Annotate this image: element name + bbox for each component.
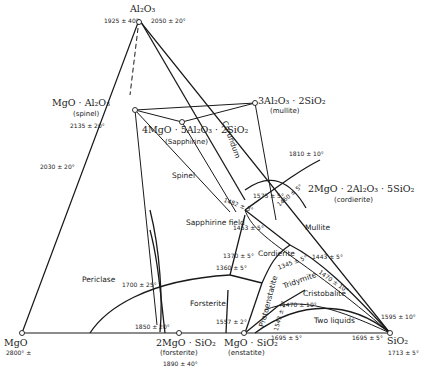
- compound-enstatite-name: (enstatite): [228, 350, 265, 357]
- compound-mullite-formula: 3Al₂O₃ · 2SiO₂: [258, 96, 326, 106]
- point-mullite: [253, 101, 258, 106]
- compound-forsterite-temp: 1890 ± 40°: [163, 361, 198, 367]
- field-forsterite: Forsterite: [190, 300, 226, 308]
- compound-spinel-name: (spinel): [73, 111, 99, 118]
- compound-cordierite-name: (cordierite): [334, 197, 373, 204]
- temp-1695b: 1695 ± 5°: [352, 335, 383, 341]
- temp-1595: 1595 ± 10°: [381, 314, 416, 320]
- vertex-top-formula: Al₂O₃: [130, 4, 155, 14]
- temp-1850: 1850 ± 20°: [135, 324, 170, 330]
- field-spinel: Spinel: [172, 172, 195, 180]
- field-periclase: Periclase: [82, 276, 115, 284]
- compound-spinel-formula: MgO · Al₂O₃: [52, 98, 110, 108]
- field-two-liquids: Two liquids: [314, 317, 355, 325]
- vertex-left-temp: 2800° ±: [6, 350, 31, 356]
- vertex-right-temp: 1713 ± 5°: [388, 350, 419, 356]
- point-spinel: [133, 108, 138, 113]
- compound-mullite-name: (mullite): [270, 108, 300, 115]
- temp-2050: 2050 ± 20°: [151, 18, 186, 24]
- point-forsterite: [177, 331, 182, 336]
- point-enstatite: [242, 331, 247, 336]
- vertex-left-formula: MgO: [4, 338, 28, 348]
- vertex-mgo: [20, 331, 25, 336]
- field-cordierite: Cordierite: [258, 250, 295, 258]
- temp-1370: 1370 ± 5°: [223, 253, 254, 259]
- temp-1557: 1557 ± 2°: [216, 319, 247, 325]
- temp-1925: 1925 ± 40°: [104, 18, 139, 24]
- field-cristobalite: Cristobalite: [303, 290, 346, 298]
- temp-1453: 1453 ± 5°: [233, 225, 264, 231]
- compound-spinel-temp: 2135 ± 20°: [70, 123, 105, 129]
- temp-1810: 1810 ± 10°: [289, 151, 324, 157]
- compound-cordierite-formula: 2MgO · 2Al₂O₃ · 5SiO₂: [308, 184, 414, 194]
- compound-forsterite-name: (forsterite): [160, 350, 198, 357]
- compound-forsterite-formula: 2MgO · SiO₂: [156, 338, 216, 348]
- field-mullite: Mullite: [305, 224, 330, 232]
- compound-sapphirine-name: (Sapphirine): [165, 139, 208, 146]
- temp-1360: 1360 ± 5°: [216, 265, 247, 271]
- vertex-right-formula: SiO₂: [387, 336, 408, 346]
- temp-1470b: 1470 ± 10°: [282, 302, 317, 308]
- compound-enstatite-formula: MgO · SiO₂: [224, 338, 278, 348]
- temp-1695a: 1695 ± 5°: [271, 335, 302, 341]
- temp-1700: 1700 ± 25°: [122, 282, 157, 288]
- temp-1443: 1443 ± 5°: [312, 254, 343, 260]
- temp-2030: 2030 ± 20°: [40, 164, 75, 170]
